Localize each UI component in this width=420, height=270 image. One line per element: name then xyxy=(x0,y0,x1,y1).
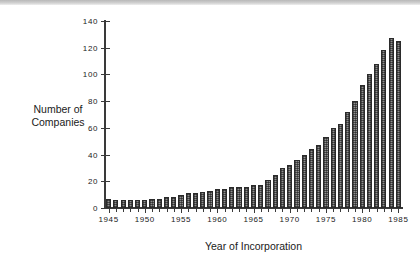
x-tick-mark xyxy=(196,208,197,212)
x-tick-mark xyxy=(254,208,255,213)
x-tick-mark xyxy=(181,208,182,213)
x-tick-mark xyxy=(123,208,124,212)
plot-area: 020406080100120140 194519501955196019651… xyxy=(105,21,402,208)
x-tick-mark xyxy=(304,208,305,212)
x-tick-label: 1945 xyxy=(99,215,119,224)
y-tick-label: 100 xyxy=(83,70,98,79)
x-tick-mark xyxy=(268,208,269,212)
bar xyxy=(360,85,365,208)
bar xyxy=(142,200,147,208)
bar xyxy=(244,187,249,208)
bar-chart-figure: Number of Companies 020406080100120140 1… xyxy=(0,0,420,270)
bar xyxy=(178,195,183,208)
x-tick-mark xyxy=(348,208,349,212)
bar xyxy=(207,191,212,208)
bar xyxy=(171,197,176,208)
bar xyxy=(222,189,227,208)
bar xyxy=(265,180,270,208)
y-axis-title: Number of Companies xyxy=(18,103,98,129)
x-tick-mark xyxy=(232,208,233,212)
bar xyxy=(121,200,126,208)
x-tick-mark xyxy=(391,208,392,212)
x-tick-mark xyxy=(152,208,153,212)
y-axis-title-line-2: Companies xyxy=(18,116,98,129)
y-tick-label: 120 xyxy=(83,43,98,52)
bar xyxy=(229,187,234,208)
x-tick-mark xyxy=(203,208,204,212)
x-tick-mark xyxy=(159,208,160,212)
y-tick-label: 0 xyxy=(93,204,98,213)
x-tick-mark xyxy=(210,208,211,212)
x-tick-mark xyxy=(275,208,276,212)
x-tick-mark xyxy=(188,208,189,212)
x-tick-mark xyxy=(246,208,247,212)
y-axis-title-line-1: Number of xyxy=(18,103,98,116)
y-tick-label: 20 xyxy=(88,177,98,186)
bar xyxy=(200,192,205,208)
bar xyxy=(309,149,314,208)
y-tick-mark xyxy=(101,155,110,156)
x-tick-mark xyxy=(333,208,334,212)
bar xyxy=(258,185,263,208)
bar xyxy=(323,137,328,208)
bar xyxy=(157,199,162,208)
bar xyxy=(164,197,169,208)
x-tick-mark xyxy=(384,208,385,212)
bar xyxy=(236,187,241,208)
x-tick-mark xyxy=(225,208,226,212)
bar xyxy=(273,175,278,208)
x-tick-mark xyxy=(340,208,341,212)
bar xyxy=(128,200,133,208)
x-tick-label: 1980 xyxy=(352,215,372,224)
x-tick-mark xyxy=(326,208,327,213)
x-tick-label: 1955 xyxy=(171,215,191,224)
x-tick-mark xyxy=(377,208,378,212)
x-tick-mark xyxy=(167,208,168,212)
x-tick-label: 1960 xyxy=(207,215,227,224)
x-tick-label: 1965 xyxy=(243,215,263,224)
x-tick-mark xyxy=(355,208,356,212)
bar xyxy=(287,165,292,208)
y-tick-label: 40 xyxy=(88,150,98,159)
bar xyxy=(294,160,299,208)
x-tick-mark xyxy=(130,208,131,212)
x-tick-mark xyxy=(116,208,117,212)
y-tick-mark xyxy=(101,101,110,102)
x-tick-mark xyxy=(297,208,298,212)
y-tick-mark xyxy=(101,74,110,75)
bar xyxy=(251,185,256,208)
bar xyxy=(106,199,111,208)
x-tick-mark xyxy=(174,208,175,212)
y-tick-mark xyxy=(101,181,110,182)
x-tick-mark xyxy=(145,208,146,213)
x-tick-mark xyxy=(362,208,363,213)
x-tick-mark xyxy=(138,208,139,212)
bar xyxy=(113,200,118,208)
x-tick-label: 1970 xyxy=(280,215,300,224)
bar xyxy=(135,200,140,208)
bar xyxy=(352,101,357,208)
x-tick-label: 1975 xyxy=(316,215,336,224)
y-tick-label: 80 xyxy=(88,97,98,106)
x-tick-label: 1950 xyxy=(135,215,155,224)
bar xyxy=(389,38,394,208)
y-tick-label: 60 xyxy=(88,123,98,132)
x-tick-mark xyxy=(239,208,240,212)
bar xyxy=(316,145,321,208)
x-tick-mark xyxy=(217,208,218,213)
x-tick-mark xyxy=(109,208,110,213)
bar xyxy=(193,193,198,208)
x-tick-mark xyxy=(398,208,399,213)
bar xyxy=(345,112,350,208)
y-tick-mark xyxy=(101,21,110,22)
x-tick-mark xyxy=(261,208,262,212)
x-axis-title: Year of Incorporation xyxy=(105,240,402,252)
bar xyxy=(186,193,191,208)
x-tick-mark xyxy=(369,208,370,212)
x-tick-mark xyxy=(282,208,283,212)
bar xyxy=(215,189,220,208)
bar xyxy=(338,124,343,208)
y-tick-mark xyxy=(101,128,110,129)
y-tick-label: 140 xyxy=(83,17,98,26)
x-tick-label: 1985 xyxy=(388,215,408,224)
